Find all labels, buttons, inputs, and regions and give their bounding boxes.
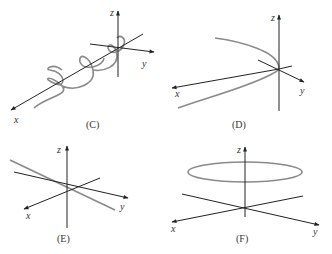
panel-c-y-label: y	[141, 58, 147, 69]
panel-f-x-label: x	[170, 223, 176, 234]
panel-c: x y z (C)	[11, 7, 154, 131]
panel-e-z-label: z	[56, 144, 61, 155]
panel-e-y-axis	[14, 172, 128, 198]
panel-c-x-axis	[11, 34, 143, 110]
panel-f-z-label: z	[236, 144, 241, 155]
panel-f-y-axis	[182, 194, 319, 225]
panel-c-z-label: z	[109, 7, 114, 18]
panel-e-line	[10, 160, 115, 210]
panel-f-caption: (F)	[236, 233, 248, 245]
panel-f: x y z (F)	[170, 144, 319, 245]
figure-canvas: x y z (C) x y z (D) x y z (E) x y z (F)	[0, 0, 332, 254]
panel-d-z-label: z	[270, 12, 275, 23]
panel-d-x-label: x	[174, 88, 180, 99]
panel-c-y-axis	[90, 44, 154, 52]
panel-c-caption: (C)	[86, 119, 99, 131]
panel-d-curve	[178, 38, 279, 108]
panel-e-y-label: y	[119, 201, 125, 212]
panel-c-x-label: x	[13, 114, 19, 125]
panel-f-y-label: y	[312, 226, 318, 237]
panel-e-caption: (E)	[57, 233, 70, 245]
panel-e-x-label: x	[25, 210, 31, 221]
panel-d-y-label: y	[299, 85, 305, 96]
panel-f-x-axis	[172, 196, 303, 222]
panel-d-y-axis-neg	[279, 66, 292, 69]
panel-d: x y z (D)	[172, 12, 305, 131]
panel-e: x y z (E)	[10, 144, 128, 245]
panel-d-caption: (D)	[232, 119, 246, 131]
panel-c-helix-curve	[34, 36, 124, 108]
